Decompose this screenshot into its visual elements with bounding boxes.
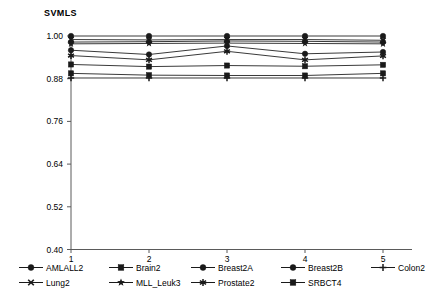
legend-marker [200,265,206,271]
legend-label: AMLALL2 [46,263,83,273]
y-tick-label: 0.88 [46,74,63,84]
y-tick-label: 0.76 [46,116,63,126]
legend-item-mll_leuk3[interactable]: MLL_Leuk3 [108,277,180,288]
legend-item-prostate2[interactable]: Prostate2 [190,277,254,288]
legend-label: SRBCT4 [308,278,342,288]
chart-legend: AMLALL2Brain2Breast2ABreast2BColon2 Lung… [0,260,447,290]
legend-marker [290,265,296,271]
series-prostate2 [68,48,386,63]
legend-marker-icon [190,277,216,288]
legend-marker-icon [280,262,306,273]
y-axis: 1.000.880.760.640.520.40 [46,31,71,255]
series-colon2 [68,75,386,81]
legend-item-lung2[interactable]: Lung2 [18,277,70,288]
data-point [146,52,151,57]
y-tick-label: 0.52 [46,202,63,212]
legend-marker-icon [18,277,44,288]
data-point [302,51,307,56]
y-tick-label: 0.64 [46,159,63,169]
legend-item-brain2[interactable]: Brain2 [108,262,161,273]
chart-container: SVMLS 1.000.880.760.640.520.40 12345 AML… [0,0,447,307]
data-point [302,64,307,69]
legend-marker [290,280,296,286]
legend-label: MLL_Leuk3 [136,278,180,288]
legend-item-amlall2[interactable]: AMLALL2 [18,262,83,273]
series-amlall2 [68,33,385,38]
data-point [146,64,151,69]
legend-marker [118,265,124,271]
legend-label: Brain2 [136,263,161,273]
data-point [380,62,385,67]
legend-item-breast2a[interactable]: Breast2A [190,262,253,273]
legend-label: Colon2 [398,263,425,273]
legend-marker-icon [108,262,134,273]
series-srbct4 [68,62,385,69]
data-point [68,62,73,67]
legend-row-1: AMLALL2Brain2Breast2ABreast2BColon2 [0,260,447,275]
y-tick-label: 0.40 [46,245,63,255]
legend-row-2: Lung2MLL_Leuk3Prostate2SRBCT4 [0,275,447,290]
data-series-group [67,33,386,81]
legend-marker-icon [18,262,44,273]
legend-marker-icon [280,277,306,288]
legend-label: Breast2A [218,263,253,273]
legend-marker [380,264,387,271]
legend-item-breast2b[interactable]: Breast2B [280,262,343,273]
legend-marker-icon [190,262,216,273]
legend-label: Breast2B [308,263,343,273]
legend-label: Prostate2 [218,278,254,288]
legend-marker [117,278,125,285]
legend-marker-icon [108,277,134,288]
legend-marker [28,265,34,271]
data-point [68,48,73,53]
legend-item-srbct4[interactable]: SRBCT4 [280,277,342,288]
legend-label: Lung2 [46,278,70,288]
y-tick-label: 1.00 [46,31,63,41]
legend-marker-icon [370,262,396,273]
data-point [224,63,229,68]
legend-item-colon2[interactable]: Colon2 [370,262,425,273]
